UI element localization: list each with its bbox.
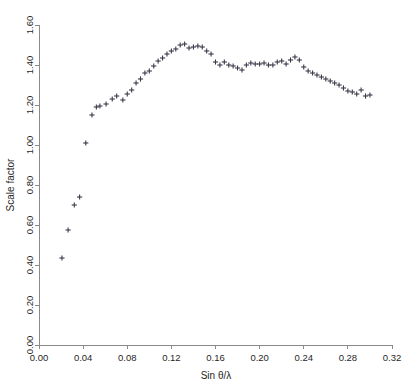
data-point-marker (191, 44, 196, 49)
data-point-marker (213, 59, 218, 64)
chart-canvas: 0.000.040.080.120.160.200.240.280.32 0.0… (0, 0, 414, 384)
data-point-marker (359, 87, 364, 92)
data-point-marker (367, 92, 372, 97)
data-point-marker (178, 42, 183, 47)
data-point-marker (66, 227, 71, 232)
y-tick-label: 1.40 (24, 56, 35, 75)
data-point-marker (103, 101, 108, 106)
data-point-marker (275, 59, 280, 64)
x-tick-label: 0.24 (295, 352, 314, 363)
y-axis-ticks: 0.000.200.400.600.801.001.201.401.60 (24, 16, 39, 355)
y-tick-label: 1.20 (24, 96, 35, 115)
data-point-marker (279, 58, 284, 63)
data-point-marker (72, 202, 77, 207)
scatter-plot-figure: 0.000.040.080.120.160.200.240.280.32 0.0… (0, 0, 414, 384)
x-axis-ticks: 0.000.040.080.120.160.200.240.280.32 (30, 345, 402, 363)
data-point-marker (186, 45, 191, 50)
data-point-marker (94, 104, 99, 109)
data-point-marker (160, 55, 165, 60)
y-tick-label: 0.80 (24, 176, 35, 195)
data-point-marker (125, 91, 130, 96)
data-point-marker (222, 59, 227, 64)
data-point-marker (257, 61, 262, 66)
data-point-marker (129, 87, 134, 92)
x-tick-label: 0.04 (74, 352, 93, 363)
y-tick-label: 0.20 (24, 296, 35, 315)
x-tick-label: 0.32 (383, 352, 402, 363)
x-tick-label: 0.16 (206, 352, 225, 363)
data-point-marker (345, 88, 350, 93)
data-point-marker (97, 103, 102, 108)
data-point-marker (164, 51, 169, 56)
data-point-marker (301, 64, 306, 69)
data-point-marker (110, 96, 115, 101)
y-axis-title: Scale factor (5, 158, 16, 211)
data-point-marker (89, 112, 94, 117)
data-point-marker (284, 61, 289, 66)
data-point-markers (59, 41, 372, 260)
data-point-marker (114, 93, 119, 98)
data-point-marker (156, 58, 161, 63)
y-tick-label: 0.40 (24, 256, 35, 275)
data-point-marker (341, 85, 346, 90)
data-point-marker (208, 51, 213, 56)
data-point-marker (292, 54, 297, 59)
data-point-marker (204, 48, 209, 53)
data-point-marker (120, 97, 125, 102)
data-point-marker (138, 76, 143, 81)
data-point-marker (83, 140, 88, 145)
plot-axes (39, 25, 392, 345)
data-point-marker (297, 57, 302, 62)
x-tick-label: 0.12 (162, 352, 181, 363)
data-point-marker (195, 43, 200, 48)
y-tick-label: 0.00 (24, 336, 35, 355)
data-point-marker (182, 41, 187, 46)
x-axis-title: Sin θ/λ (201, 370, 232, 381)
data-point-marker (226, 62, 231, 67)
data-point-marker (59, 255, 64, 260)
data-point-marker (217, 62, 222, 67)
x-tick-label: 0.28 (339, 352, 358, 363)
data-point-marker (133, 80, 138, 85)
x-tick-label: 0.08 (118, 352, 137, 363)
data-point-marker (363, 93, 368, 98)
x-tick-label: 0.20 (250, 352, 269, 363)
y-tick-label: 1.60 (24, 16, 35, 35)
y-tick-label: 1.00 (24, 136, 35, 155)
data-point-marker (200, 44, 205, 49)
y-tick-label: 0.60 (24, 216, 35, 235)
data-point-marker (270, 62, 275, 67)
data-point-marker (151, 63, 156, 68)
data-point-marker (77, 194, 82, 199)
data-point-marker (288, 57, 293, 62)
